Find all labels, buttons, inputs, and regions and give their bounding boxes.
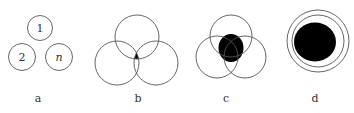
panel-c: c	[196, 15, 266, 105]
panel-a: 1 2 n a	[9, 16, 73, 106]
filled-core	[294, 23, 336, 62]
panel-d-label: d	[311, 92, 318, 105]
panel-d: d	[287, 10, 349, 105]
circle-n-label: n	[55, 51, 62, 64]
panel-a-label: a	[35, 92, 42, 105]
filled-core	[219, 34, 244, 62]
panel-c-label: c	[223, 92, 229, 105]
circle-1-label: 1	[37, 22, 44, 35]
panel-b-label: b	[134, 92, 141, 105]
circle-left	[95, 41, 139, 85]
circle-2-label: 2	[19, 51, 26, 64]
panel-b: b	[95, 15, 178, 105]
venn-figure: 1 2 n a b c d	[0, 0, 354, 113]
